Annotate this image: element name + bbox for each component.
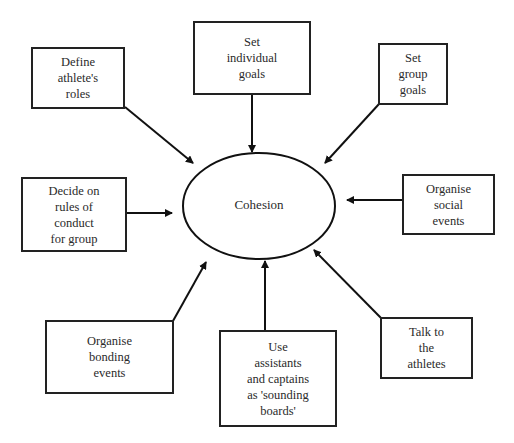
arrow-bonding-events xyxy=(173,262,206,321)
box-define-roles: Define athlete's roles xyxy=(31,47,125,109)
box-rules-of-conduct: Decide on rules of conduct for group xyxy=(21,177,127,252)
box-talk-to-athletes: Talk to the athletes xyxy=(380,317,473,379)
box-sounding-boards: Use assistants and captains as 'sounding… xyxy=(219,330,337,427)
box-individual-goals: Set individual goals xyxy=(193,21,311,95)
arrow-group-goals xyxy=(325,104,379,163)
figure-caption xyxy=(0,432,514,443)
cohesion-label: Cohesion xyxy=(209,197,309,213)
box-bonding-events: Organise bonding events xyxy=(45,320,174,394)
arrow-talk-to-athletes xyxy=(314,250,381,318)
box-group-goals: Set group goals xyxy=(378,43,448,105)
box-social-events: Organise social events xyxy=(402,174,495,235)
arrow-define-roles xyxy=(125,107,193,163)
